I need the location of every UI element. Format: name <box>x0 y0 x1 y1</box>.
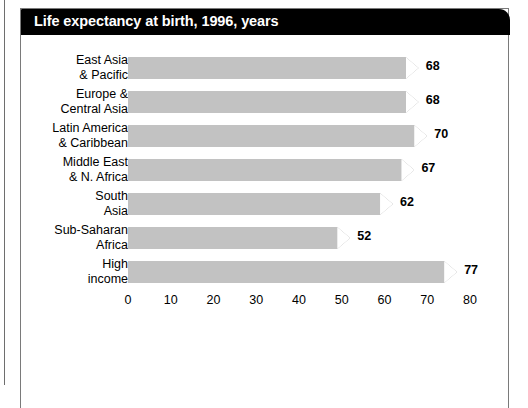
x-axis-tick-label: 10 <box>151 293 191 307</box>
bar-value-label: 52 <box>357 229 371 243</box>
bar <box>128 261 457 283</box>
bar-row: East Asia & Pacific68 <box>21 57 510 79</box>
chart-panel: Life expectancy at birth, 1996, years Ea… <box>20 8 509 408</box>
x-axis-tick-label: 50 <box>322 293 362 307</box>
bar-row: South Asia62 <box>21 193 510 215</box>
category-label: Europe & Central Asia <box>0 87 128 116</box>
bar-value-label: 68 <box>426 59 440 73</box>
page-title: Life expectancy at birth, 1996, years <box>34 13 279 29</box>
category-label: Latin America & Caribbean <box>0 121 128 150</box>
chart-title-bar: Life expectancy at birth, 1996, years <box>21 9 510 35</box>
bar <box>128 227 350 249</box>
chart-plot-area: East Asia & Pacific68Europe & Central As… <box>21 35 510 305</box>
bar-value-label: 62 <box>400 195 414 209</box>
bar-value-label: 67 <box>421 161 435 175</box>
x-axis-tick-label: 40 <box>279 293 319 307</box>
bar-value-label: 77 <box>464 263 478 277</box>
x-axis: 01020304050607080 <box>21 293 510 311</box>
bar-row: High income77 <box>21 261 510 283</box>
x-axis-tick-label: 20 <box>194 293 234 307</box>
bar <box>128 91 419 113</box>
category-label: Middle East & N. Africa <box>0 155 128 184</box>
x-axis-tick-label: 60 <box>365 293 405 307</box>
bar-row: Europe & Central Asia68 <box>21 91 510 113</box>
bar-row: Latin America & Caribbean70 <box>21 125 510 147</box>
bar <box>128 193 393 215</box>
x-axis-tick-label: 30 <box>236 293 276 307</box>
bar <box>128 57 419 79</box>
category-label: East Asia & Pacific <box>0 53 128 82</box>
bar <box>128 125 427 147</box>
x-axis-tick-label: 80 <box>450 293 490 307</box>
category-label: High income <box>0 257 128 286</box>
category-label: Sub-Saharan Africa <box>0 223 128 252</box>
x-axis-tick-label: 70 <box>407 293 447 307</box>
bar-row: Sub-Saharan Africa52 <box>21 227 510 249</box>
bar-value-label: 68 <box>426 93 440 107</box>
category-label: South Asia <box>0 189 128 218</box>
bar-value-label: 70 <box>434 127 448 141</box>
bar-row: Middle East & N. Africa67 <box>21 159 510 181</box>
x-axis-tick-label: 0 <box>108 293 148 307</box>
bar <box>128 159 414 181</box>
